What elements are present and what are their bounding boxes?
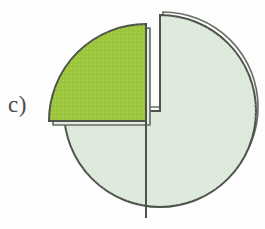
figure-container: c) [0,0,265,229]
pie-chart-svg [0,0,265,229]
figure-label: c) [8,92,27,118]
